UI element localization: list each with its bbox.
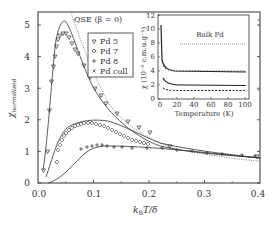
y-tick-label: 2 (24, 115, 30, 125)
y-tick-label: 1 (24, 147, 30, 157)
inset-x-tick: 80 (224, 101, 233, 109)
inset-x-label: Temperature (K) (175, 110, 234, 118)
x-tick-label: 0.2 (142, 189, 156, 199)
y-axis-label: χnormalized (6, 78, 17, 119)
inset-chart: 0 2 4 6 8 10 12 0 20 40 60 80 100 Temper… (140, 12, 252, 118)
legend-item-label: Pd 5 (100, 37, 118, 46)
inset-y-tick: 12 (146, 12, 155, 20)
y-tick-label: 3 (24, 84, 30, 94)
inset-x-tick: 100 (238, 101, 251, 109)
inset-y-tick: 0 (151, 95, 155, 103)
legend-item-label: Pd 8 (100, 57, 118, 66)
y-tick-label: 4 (24, 52, 30, 62)
inset-x-tick: 60 (207, 101, 216, 109)
inset-y-tick: 4 (151, 67, 156, 75)
inset-y-tick: 6 (151, 53, 156, 61)
x-tick-label: 0.1 (87, 189, 101, 199)
y-tick-label: 5 (24, 20, 30, 30)
inset-x-tick: 0 (158, 101, 162, 109)
x-tick-label: 0.4 (251, 189, 266, 199)
inset-x-tick: 40 (190, 101, 199, 109)
inset-title: Bulk Pd (196, 31, 224, 39)
legend-item-label: Pd 7 (100, 47, 118, 56)
fit-curve-pd7 (46, 120, 260, 177)
y-tick-label: 0 (24, 178, 30, 188)
chart: 0 1 2 3 4 5 0.0 0.1 0.2 0.3 0.4 kBT/δ χn… (0, 0, 277, 228)
x-axis-label: kBT/δ (133, 205, 157, 216)
inset-y-tick: 2 (151, 81, 155, 89)
legend-item-label: Pd coll (100, 67, 128, 76)
fit-curve-pd8 (48, 146, 260, 183)
x-tick-label: 0.3 (197, 189, 212, 199)
inset-x-tick: 20 (173, 101, 182, 109)
inset-y-label: χ (10⁻⁶ c.m.u.g⁻¹) (140, 27, 148, 90)
legend: Pd 5 Pd 7 Pd 8 Pd coll (88, 33, 133, 77)
series-pd7 (55, 121, 150, 164)
x-tick-label: 0.0 (32, 189, 47, 199)
inset-y-tick: 8 (151, 39, 155, 47)
qse-annotation: QSE (β = 0) (74, 15, 122, 24)
